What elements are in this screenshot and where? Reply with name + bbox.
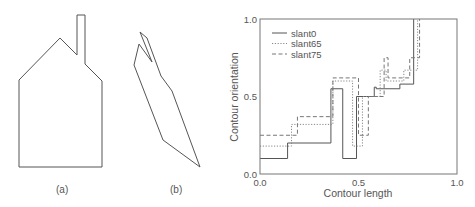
step-chart: 0.00.00.50.51.01.0 slant0slant65slant75 … [0,0,475,207]
series-slant65 [260,19,418,146]
axis-ticks: 0.00.00.50.51.01.0 [244,14,464,189]
legend-label: slant65 [291,38,322,49]
y-tick-label: 0.0 [244,169,257,180]
y-tick-label: 0.5 [244,91,257,102]
x-axis-label: Contour length [324,187,393,199]
legend: slant0slant65slant75 [272,28,322,60]
y-tick-label: 1.0 [244,14,257,25]
series-slant0 [260,19,414,159]
series-layer [260,19,420,159]
legend-label: slant75 [291,49,322,60]
series-slant75 [260,19,420,135]
legend-label: slant0 [291,28,316,39]
y-axis-label: Contour orientation [228,52,240,141]
x-tick-label: 1.0 [450,177,463,188]
